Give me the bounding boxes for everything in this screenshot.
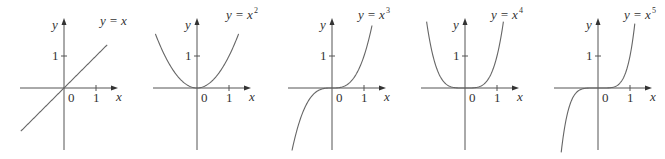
function-label-exponent: 2 — [254, 6, 258, 15]
y-axis-label: y — [584, 17, 592, 32]
function-label: y = x — [356, 7, 385, 22]
y-axis-label: y — [183, 17, 191, 32]
y-axis-arrow-icon — [330, 18, 335, 25]
y-tick-label-1: 1 — [185, 48, 192, 63]
y-axis-label: y — [50, 17, 58, 32]
y-tick-label-1: 1 — [52, 48, 59, 63]
x-tick-label-1: 1 — [361, 90, 368, 105]
plot-3: 011xyy = x3 — [288, 6, 390, 151]
y-axis-arrow-icon — [195, 18, 200, 25]
x-tick-label-0: 0 — [469, 90, 476, 105]
x-tick-label-1: 1 — [494, 90, 501, 105]
x-tick-label-0: 0 — [68, 90, 75, 105]
function-label: y = x — [98, 13, 127, 28]
y-axis-label: y — [451, 17, 459, 32]
x-tick-label-1: 1 — [93, 90, 100, 105]
plot-4: 011xyy = x4 — [421, 6, 523, 150]
function-label-exponent: 3 — [386, 6, 390, 15]
function-label-exponent: 5 — [652, 6, 656, 15]
y-axis-label: y — [318, 17, 326, 32]
function-label: y = x — [489, 7, 518, 22]
y-tick-label-1: 1 — [453, 48, 460, 63]
plot-5: 011xyy = x5 — [554, 6, 656, 152]
x-axis-label: x — [115, 89, 122, 104]
power-functions-figure: 011xyy = x011xyy = x2011xyy = x3011xyy =… — [0, 0, 665, 159]
function-label-exponent: 4 — [519, 6, 523, 15]
plot-1: 011xyy = x — [20, 13, 127, 150]
plot-2: 011xyy = x2 — [153, 6, 258, 150]
x-tick-label-1: 1 — [627, 90, 634, 105]
x-axis-label: x — [383, 89, 390, 104]
x-tick-label-0: 0 — [201, 90, 208, 105]
x-axis-label: x — [248, 89, 255, 104]
y-axis-arrow-icon — [463, 18, 468, 25]
x-tick-label-0: 0 — [336, 90, 343, 105]
x-axis-label: x — [516, 89, 523, 104]
x-tick-label-1: 1 — [226, 90, 233, 105]
x-axis-label: x — [649, 89, 656, 104]
y-tick-label-1: 1 — [320, 48, 327, 63]
function-label: y = x — [622, 7, 651, 22]
function-label: y = x — [224, 7, 253, 22]
x-tick-label-0: 0 — [602, 90, 609, 105]
y-axis-arrow-icon — [62, 18, 67, 25]
y-tick-label-1: 1 — [586, 48, 593, 63]
y-axis-arrow-icon — [596, 18, 601, 25]
